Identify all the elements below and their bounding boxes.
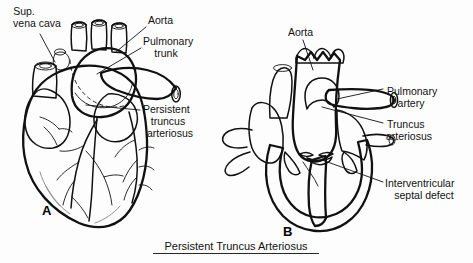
label-truncus-a-line3: arteriosus xyxy=(147,127,193,139)
label-pulmonary-artery-line2: artery xyxy=(398,97,426,109)
leader-pulmonary-artery-b xyxy=(337,89,383,99)
coronary-vessels-right xyxy=(115,112,154,203)
panel-a-letter: A xyxy=(42,203,52,218)
interventricular-septum xyxy=(309,156,326,226)
leader-svc xyxy=(40,34,55,62)
leader-aorta-b xyxy=(303,40,313,70)
panel-b-illustration xyxy=(223,48,398,231)
apex-shading xyxy=(40,172,120,223)
label-svc-line2: vena cava xyxy=(13,17,61,29)
atrial-vessels xyxy=(40,117,72,145)
left-heart-chamber xyxy=(249,103,283,164)
label-vsd-line2: septal defect xyxy=(394,189,454,201)
figure-caption: Persistent Truncus Arteriosus xyxy=(164,240,308,252)
label-pulmonary-artery-line1: Pulmonary xyxy=(387,85,438,97)
label-svc-line1: Sup. xyxy=(13,5,35,17)
pulmonary-vein-stubs xyxy=(223,129,252,148)
panel-b-letter: B xyxy=(283,224,292,239)
label-pulmonary-trunk-line2: trunk xyxy=(154,47,178,59)
truncal-valve-leaflets xyxy=(300,153,333,157)
leader-vsd xyxy=(322,160,383,182)
coronary-vessels-left xyxy=(57,120,123,218)
label-truncus-a-line1: Persistent xyxy=(143,103,190,115)
label-aorta-a: Aorta xyxy=(148,14,173,26)
svc-stub-b xyxy=(270,68,292,118)
interventricular-groove xyxy=(89,118,97,221)
label-pulmonary-trunk-line1: Pulmonary xyxy=(143,35,194,47)
label-aorta-b: Aorta xyxy=(288,26,313,38)
figure-persistent-truncus-arteriosus: Sup. vena cava Aorta Pulmonary trunk Per… xyxy=(0,0,473,263)
leader-aorta-a xyxy=(116,27,146,52)
label-vsd-line1: Interventricular xyxy=(385,177,455,189)
label-truncus-b-line1: Truncus xyxy=(387,118,425,130)
figure-canvas: Sup. vena cava Aorta Pulmonary trunk Per… xyxy=(0,0,473,263)
label-truncus-a-line2: truncus xyxy=(151,115,185,127)
label-truncus-b-line2: arteriosus xyxy=(386,130,432,142)
